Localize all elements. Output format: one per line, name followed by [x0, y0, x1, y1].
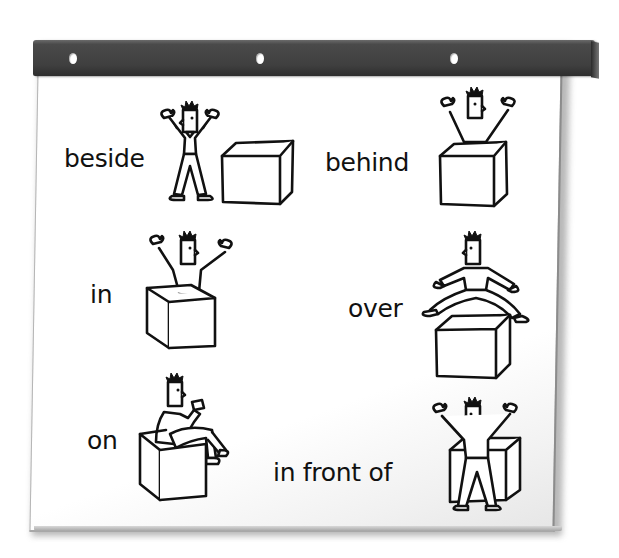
binding-bar-side: [591, 41, 599, 78]
label-over: over: [348, 296, 403, 321]
label-on: on: [87, 428, 118, 453]
person-in-box-icon: [143, 230, 243, 350]
binding-hole-icon: [256, 53, 264, 64]
person-jumping-over-box-icon: [422, 228, 542, 378]
binding-hole-icon: [69, 53, 77, 64]
binding-bar: [33, 40, 595, 76]
paper-stack-edge: [34, 526, 562, 531]
person-in-front-of-box-icon: [430, 400, 530, 520]
label-in-front-of: in front of: [273, 460, 392, 485]
person-standing-beside-box-icon: [140, 96, 300, 211]
flip-chart-board: beside behind in: [0, 0, 619, 558]
binding-hole-icon: [450, 53, 458, 64]
label-behind: behind: [325, 150, 409, 175]
person-behind-box-icon: [438, 92, 558, 212]
label-beside: beside: [64, 146, 145, 171]
label-in: in: [90, 282, 112, 307]
person-sitting-on-box-icon: [136, 374, 246, 504]
